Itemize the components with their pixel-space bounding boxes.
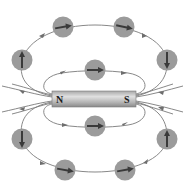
bar-magnet: N S <box>52 91 136 107</box>
north-pole-label: N <box>56 94 64 105</box>
magnetic-field-diagram: N S <box>0 0 185 184</box>
compass-bottom-right <box>115 160 136 181</box>
arrow-icon <box>62 123 68 127</box>
field-line-right-lower <box>136 101 183 112</box>
compass-bottom-left <box>55 160 76 181</box>
field-line-left-lower <box>2 101 52 112</box>
compass-inner-top <box>85 60 106 81</box>
compass-lower-left-side <box>12 129 33 150</box>
arrow-icon <box>121 71 127 75</box>
compass-top-left <box>53 17 74 38</box>
compass-upper-left-side <box>12 50 33 71</box>
field-line-left-upper <box>2 86 52 97</box>
south-pole-label: S <box>124 94 130 105</box>
field-line-right-upper <box>136 86 183 97</box>
compass-upper-right-side <box>157 50 178 71</box>
arrow-icon <box>158 91 164 95</box>
compass-inner-bottom <box>85 116 106 137</box>
compass-top-right <box>114 17 135 38</box>
arrow-icon <box>19 90 25 94</box>
compass-lower-right-side <box>157 129 178 150</box>
